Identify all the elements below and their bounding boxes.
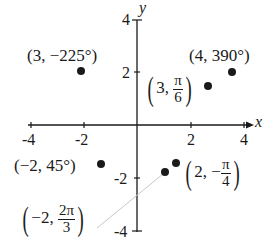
point-label: (4, 390°)	[189, 47, 250, 64]
point-label: (−2, 45°)	[14, 157, 76, 174]
y-axis-label: y	[139, 0, 146, 16]
x-tick-label: -2	[75, 132, 88, 148]
x-axis-label: x	[255, 114, 262, 130]
x-axis-arrow-icon	[246, 122, 254, 129]
x-tick-label: 2	[187, 132, 195, 148]
y-tick-label: 4	[122, 12, 130, 28]
point-3-pi6	[204, 82, 212, 90]
point-label-3-pi6: (3, π6)	[145, 72, 194, 106]
y-tick-label: 2	[122, 65, 130, 81]
x-tick-label: -4	[22, 132, 35, 148]
y-tick-label: -2	[114, 171, 127, 187]
point-neg2-2pi3	[161, 168, 169, 176]
point-label-neg2-2pi3: (−2, 2π3)	[20, 202, 86, 236]
point-3-neg225deg	[77, 67, 85, 75]
point-label-2-negpi4: (2, −π4)	[183, 156, 242, 190]
y-tick-label: -4	[114, 224, 127, 240]
point-label: (3, −225°)	[27, 47, 97, 64]
point-4-390deg	[228, 68, 236, 76]
point-2-negpi4	[172, 159, 180, 167]
x-tick-label: 4	[240, 132, 248, 148]
leader-line	[97, 174, 163, 228]
point-neg2-45deg	[97, 160, 105, 168]
